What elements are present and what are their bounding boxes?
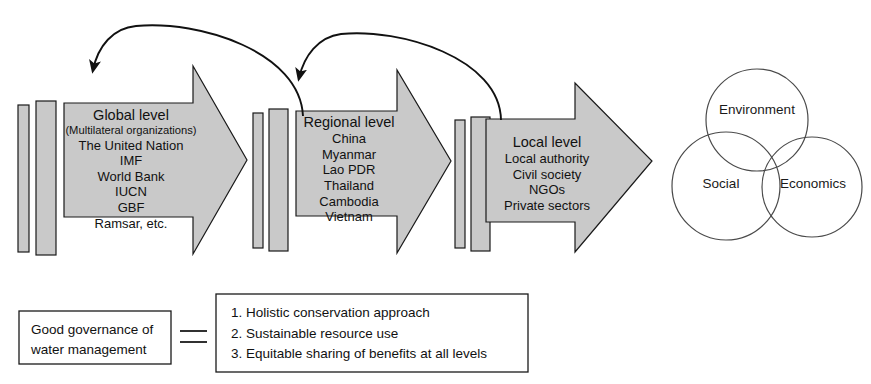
regional-level-item: Myanmar: [294, 147, 404, 163]
global-level-item: World Bank: [64, 169, 198, 185]
local-level-item: Local authority: [489, 151, 605, 167]
global-level-item: The United Nation: [64, 138, 198, 154]
global-level-item: GBF: [64, 200, 198, 216]
governance-line-1: Good governance of: [31, 320, 167, 340]
regional-pre-bar-2: [269, 109, 288, 251]
regional-level-item: China: [294, 131, 404, 147]
regional-level-item: Thailand: [294, 178, 404, 194]
governance-framework-diagram: Global level (Multilateral organizations…: [0, 0, 871, 384]
venn-label-social: Social: [686, 176, 756, 191]
regional-level-item: Lao PDR: [294, 162, 404, 178]
global-level-item: Ramsar, etc.: [64, 216, 198, 232]
global-level-item: IUCN: [64, 184, 198, 200]
global-pre-bar-1: [18, 105, 29, 252]
regional-level-title: Regional level: [294, 113, 404, 131]
principle-item: 3. Equitable sharing of benefits at all …: [231, 344, 521, 365]
regional-level-item: Vietnam: [294, 209, 404, 225]
local-pre-bar-1: [455, 120, 465, 248]
local-level-text-block: Local level Local authority Civil societ…: [489, 133, 605, 214]
local-level-item: NGOs: [489, 182, 605, 198]
regional-level-text-block: Regional level China Myanmar Lao PDR Tha…: [294, 113, 404, 225]
local-level-item: Private sectors: [489, 198, 605, 214]
global-pre-bar-2: [36, 101, 56, 255]
regional-pre-bar-1: [253, 113, 263, 248]
global-level-title: Global level: [64, 106, 198, 124]
principle-item: 1. Holistic conservation approach: [231, 303, 521, 324]
global-level-item: IMF: [64, 153, 198, 169]
venn-label-economics: Economics: [770, 176, 856, 191]
governance-line-2: water management: [31, 340, 167, 360]
global-level-subtitle: (Multilateral organizations): [64, 124, 198, 137]
governance-box-text: Good governance of water management: [31, 320, 167, 359]
regional-level-item: Cambodia: [294, 194, 404, 210]
principles-list: 1. Holistic conservation approach 2. Sus…: [231, 303, 521, 365]
venn-circle-environment: [706, 69, 808, 171]
global-level-text-block: Global level (Multilateral organizations…: [64, 106, 198, 231]
local-level-title: Local level: [489, 133, 605, 151]
local-level-item: Civil society: [489, 167, 605, 183]
principle-item: 2. Sustainable resource use: [231, 324, 521, 345]
venn-label-environment: Environment: [707, 102, 807, 117]
